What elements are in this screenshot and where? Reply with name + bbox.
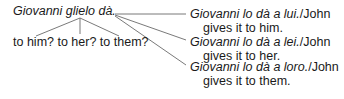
branch-them [80, 18, 119, 36]
source-sentence: Giovanni glielo dà. [13, 4, 116, 18]
option-3: Giovanni lo dà a loro./John [190, 60, 339, 74]
branch-him [36, 18, 80, 36]
option-3-english-cont: gives it to them. [203, 74, 291, 88]
ambiguity-question: to him? to her? to them? [13, 35, 149, 49]
diagram: Giovanni glielo dà. to him? to her? to t… [0, 0, 344, 99]
option-2: Giovanni lo dà a lei./John [190, 35, 330, 49]
option-1-italian: Giovanni lo dà a lui. [190, 7, 300, 21]
option-2-italian: Giovanni lo dà a lei. [190, 35, 300, 49]
option-1-english: John [303, 7, 330, 21]
option-3-english: John [312, 60, 339, 74]
option-1: Giovanni lo dà a lui./John [190, 7, 330, 21]
option-1-english-cont: gives it to him. [203, 21, 283, 35]
option-3-italian: Giovanni lo dà a loro. [190, 60, 308, 74]
option-2-english: John [303, 35, 330, 49]
